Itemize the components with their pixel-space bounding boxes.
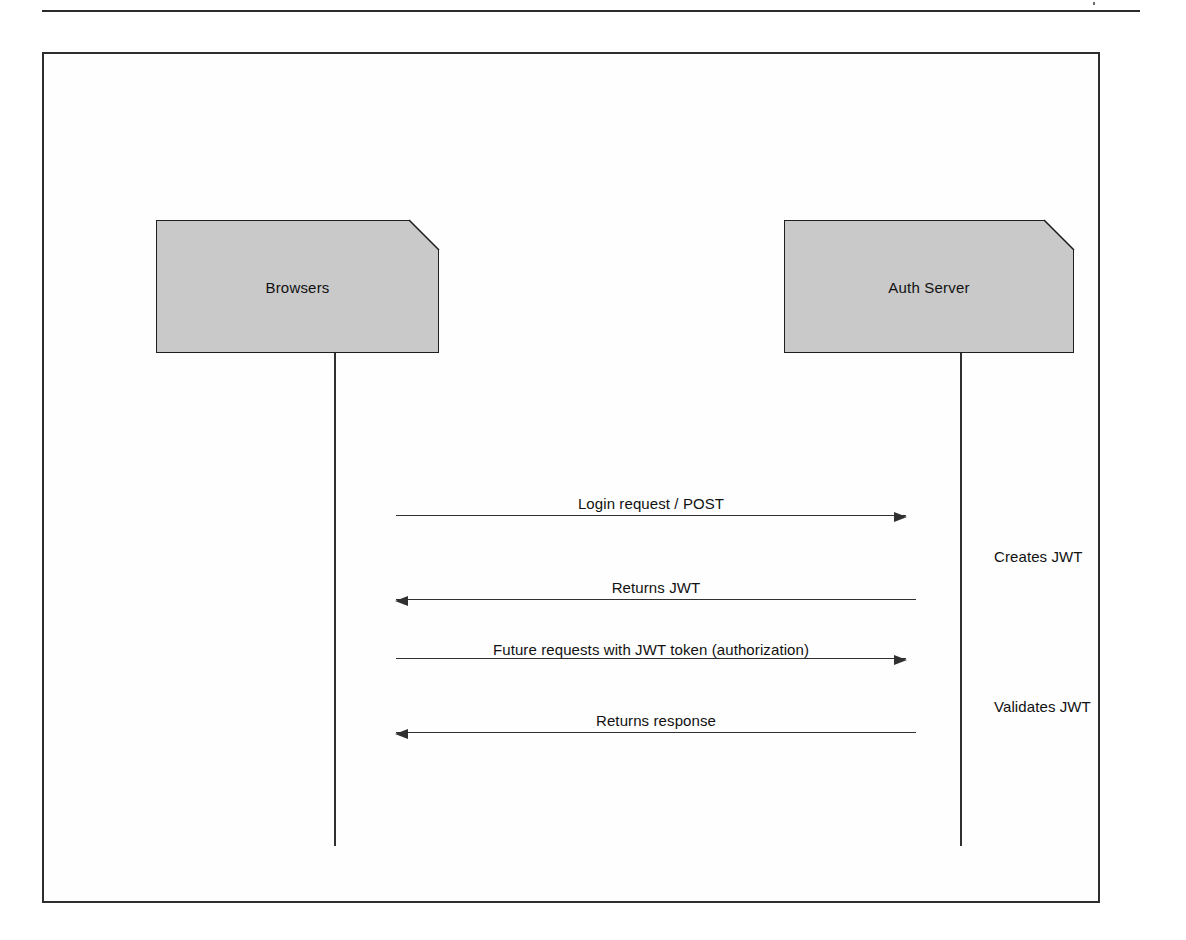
participant-auth-server[interactable]: Auth Server <box>784 220 1074 353</box>
annotation-creates-jwt: Creates JWT <box>994 548 1083 565</box>
message-line <box>396 515 906 516</box>
message-returns-response[interactable]: Returns response <box>396 699 916 733</box>
diagram-frame: Browsers Auth Server Login request / POS… <box>42 52 1100 903</box>
message-label: Future requests with JWT token (authoriz… <box>396 641 906 658</box>
message-returns-jwt[interactable]: Returns JWT <box>396 566 916 600</box>
annotation-validates-jwt: Validates JWT <box>994 698 1091 715</box>
message-label: Returns response <box>396 712 916 729</box>
participant-auth-server-label: Auth Server <box>785 278 1073 295</box>
page-artifact-speck <box>1093 2 1095 5</box>
header-divider <box>42 10 1140 12</box>
page-canvas: Browsers Auth Server Login request / POS… <box>0 0 1186 940</box>
message-line <box>396 599 916 600</box>
participant-browsers-label: Browsers <box>157 278 438 295</box>
message-line <box>396 658 906 659</box>
message-login-request[interactable]: Login request / POST <box>396 482 906 516</box>
arrowhead-right-icon <box>894 655 907 665</box>
participant-browsers[interactable]: Browsers <box>156 220 439 353</box>
arrowhead-left-icon <box>395 729 408 739</box>
lifeline-auth-server <box>960 353 962 846</box>
lifeline-browsers <box>334 353 336 846</box>
message-label: Login request / POST <box>396 495 906 512</box>
chamfer-corner-shape <box>409 220 439 250</box>
message-label: Returns JWT <box>396 579 916 596</box>
chamfer-corner-shape <box>1044 220 1074 250</box>
message-line <box>396 732 916 733</box>
arrowhead-right-icon <box>894 512 907 522</box>
arrowhead-left-icon <box>395 596 408 606</box>
message-future-requests[interactable]: Future requests with JWT token (authoriz… <box>396 625 906 659</box>
